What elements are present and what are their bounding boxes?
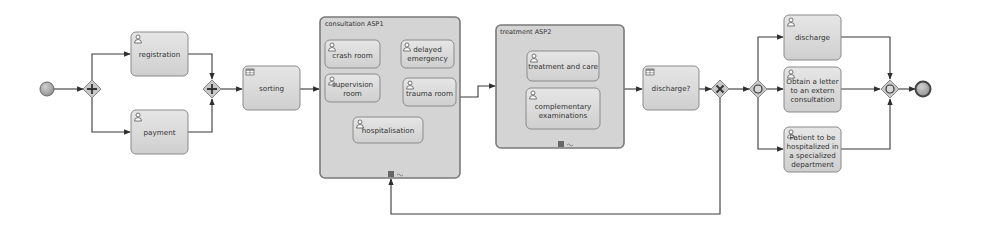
label-registration: registration [131, 32, 188, 76]
label-hospitalisation: hospitalisation [353, 117, 423, 143]
parallel-split-gateway[interactable] [83, 80, 101, 98]
subprocess-treatment-title: treatment ASP2 [500, 28, 551, 36]
label-line: a specialized [789, 151, 836, 160]
label-line: emergency [407, 54, 447, 63]
label-obtain-letter: Obtain a letter to an extern consultatio… [784, 69, 841, 112]
collapse-marker-icon [558, 141, 564, 147]
label-delayed-emergency: delayed emergency [401, 40, 454, 68]
label-patient-hospitalized: Patient to be hospitalized in a speciali… [784, 129, 841, 172]
label-treatment-and-care: treatment and care [527, 51, 599, 81]
label-crash-room: crash room [325, 42, 380, 68]
label-complementary-examinations: complementary examinations [526, 92, 600, 129]
inclusive-join-gateway[interactable] [881, 80, 899, 98]
label-line: delayed [413, 45, 442, 54]
collapse-marker-icon [388, 171, 394, 177]
label-line: Obtain a letter [786, 77, 838, 86]
label-line: Patient to be [790, 133, 836, 142]
subprocess-treatment[interactable] [496, 25, 624, 148]
exclusive-gateway[interactable] [711, 80, 729, 98]
label-line: hospitalized in [786, 142, 838, 151]
parallel-join-gateway[interactable] [203, 80, 221, 98]
label-line: examinations [539, 111, 587, 120]
label-line: to an extern [791, 86, 835, 95]
inclusive-split-gateway[interactable] [749, 80, 767, 98]
label-line: consultation [790, 95, 834, 104]
start-event[interactable] [40, 82, 54, 96]
label-discharge: discharge [784, 15, 841, 60]
label-trauma-room: trauma room [403, 80, 456, 106]
label-line: department [791, 160, 834, 169]
subprocess-consultation-title: consultation ASP1 [325, 20, 384, 28]
label-discharge-question: discharge? [643, 66, 699, 110]
end-event[interactable] [916, 82, 931, 97]
label-line: complementary [535, 102, 592, 111]
label-supervision-room: supervision room [325, 76, 380, 102]
label-sorting: sorting [243, 66, 300, 110]
label-payment: payment [131, 110, 188, 154]
